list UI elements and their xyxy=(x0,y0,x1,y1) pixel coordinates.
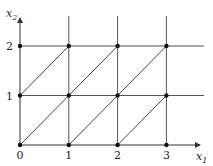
lattice-point xyxy=(115,143,119,147)
lattice-point xyxy=(18,93,22,97)
lattice-point xyxy=(115,93,119,97)
x-axis-label: x1 xyxy=(196,150,207,165)
x-tick-label: 0 xyxy=(17,149,24,162)
y-axis-label: x2 xyxy=(6,7,17,22)
axes xyxy=(20,18,200,145)
lattice-point xyxy=(18,44,22,48)
lattice-point xyxy=(164,143,168,147)
grid-lines xyxy=(20,16,204,145)
x-tick-label: 3 xyxy=(163,149,170,162)
lattice-point xyxy=(18,143,22,147)
triangulation-diagram: 012312 x1 x2 xyxy=(0,0,213,166)
x-tick-label: 2 xyxy=(114,149,121,162)
diagonal-line xyxy=(118,96,167,146)
lattice-point xyxy=(115,44,119,48)
x-tick-label: 1 xyxy=(65,149,72,162)
y-tick-label: 2 xyxy=(6,40,13,53)
y-tick-label: 1 xyxy=(6,90,13,103)
lattice-point xyxy=(67,143,71,147)
lattice-point xyxy=(67,44,71,48)
lattice-point xyxy=(164,44,168,48)
lattice-point xyxy=(164,93,168,97)
diagonal-line xyxy=(20,46,69,96)
lattice-point xyxy=(67,93,71,97)
tick-labels: 012312 xyxy=(6,40,170,162)
